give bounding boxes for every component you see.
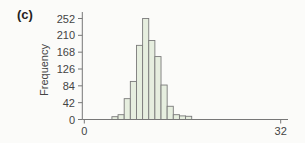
histogram-bar	[179, 116, 185, 120]
y-tick-label: 84	[63, 80, 75, 92]
histogram-bar	[118, 115, 124, 120]
histogram-bar	[136, 45, 142, 119]
y-tick-label: 210	[57, 29, 75, 41]
histogram-bar	[173, 115, 179, 120]
histogram-bar	[124, 99, 130, 120]
y-tick-label: 252	[57, 13, 75, 25]
y-tick-label: 168	[57, 46, 75, 58]
histogram-bar	[167, 106, 173, 119]
y-tick-label: 42	[63, 97, 75, 109]
y-tick-label: 0	[69, 114, 75, 126]
histogram-bar	[149, 41, 155, 120]
histogram-bar	[130, 81, 136, 119]
histogram-bar	[143, 19, 149, 120]
y-tick-label: 126	[57, 63, 75, 75]
histogram-bar	[155, 57, 161, 120]
x-tick-label: 0	[81, 125, 87, 137]
histogram-bar	[161, 85, 167, 119]
histogram-chart: 04284126168210252032	[0, 0, 305, 143]
x-tick-label: 32	[275, 125, 287, 137]
